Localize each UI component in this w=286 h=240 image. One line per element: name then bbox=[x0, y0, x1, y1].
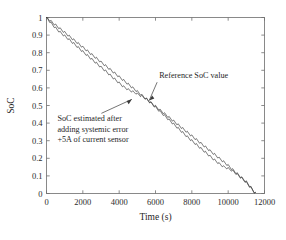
x-tick-label: 0 bbox=[44, 197, 48, 207]
x-axis-title: Time (s) bbox=[139, 212, 171, 223]
y-tick-label: 0.6 bbox=[32, 83, 43, 93]
y-tick-label: 0.7 bbox=[32, 65, 43, 75]
y-tick-label: 0.3 bbox=[32, 136, 43, 146]
x-tick-label: 2000 bbox=[74, 197, 91, 207]
estimated-soc-annotation-line-2: adding systemic error bbox=[57, 125, 128, 134]
x-tick-label: 4000 bbox=[111, 197, 128, 207]
estimated-soc-annotation-line-1: SoC estimated after bbox=[57, 114, 122, 123]
series-curve-2 bbox=[47, 18, 256, 193]
y-tick-label: 0.5 bbox=[32, 101, 43, 111]
reference-soc-annotation-text: Reference SoC value bbox=[159, 71, 228, 80]
y-tick-label: 0.1 bbox=[32, 171, 43, 181]
x-tick-label: 6000 bbox=[147, 197, 164, 207]
y-tick-label: 0.8 bbox=[32, 48, 43, 58]
x-tick-label: 12000 bbox=[254, 197, 275, 207]
y-tick-label: 1 bbox=[38, 13, 42, 23]
y-tick-label: 0.9 bbox=[32, 30, 43, 40]
y-tick-label: 0.2 bbox=[32, 153, 43, 163]
x-tick-label: 10000 bbox=[218, 197, 239, 207]
y-tick-label: 0 bbox=[38, 189, 42, 199]
y-axis-title: SoC bbox=[6, 97, 16, 113]
y-tick-label: 0.4 bbox=[32, 118, 43, 128]
soc-discharge-chart-figure: 02000400060008000100001200000.10.20.30.4… bbox=[0, 0, 286, 240]
x-tick-label: 8000 bbox=[183, 197, 200, 207]
soc-vs-time-plot: 02000400060008000100001200000.10.20.30.4… bbox=[0, 0, 286, 240]
estimated-soc-arrowhead-icon bbox=[127, 99, 132, 104]
estimated-soc-annotation-line-3: +5A of current sensor bbox=[57, 135, 129, 144]
